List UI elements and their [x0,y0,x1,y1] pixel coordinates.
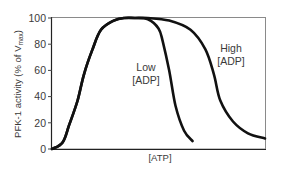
y-axis-ticks: 020406080100 [28,12,52,155]
y-tick-label: 0 [40,143,46,155]
high-adp-label-line1: High [220,42,242,54]
y-tick-label: 60 [34,64,46,76]
y-axis-title-main: PFK-1 activity (% of V [12,45,23,138]
low-adp-curve [52,18,193,149]
pfk1-activity-chart: 020406080100 Low [ADP] High [ADP] [ATP] … [0,0,282,170]
y-axis-title: PFK-1 activity (% of Vmax) [12,30,24,138]
y-tick-label: 40 [34,90,46,102]
y-axis-title-close: ) [12,30,23,33]
low-adp-label-line2: [ADP] [132,74,160,86]
x-axis-title: [ATP] [148,152,171,163]
high-adp-label-line2: [ADP] [217,55,245,67]
low-adp-label-line1: Low [136,61,156,73]
y-tick-label: 100 [28,12,46,24]
y-axis-title-sub: max [17,33,24,46]
y-tick-label: 20 [34,117,46,129]
y-tick-label: 80 [34,38,46,50]
